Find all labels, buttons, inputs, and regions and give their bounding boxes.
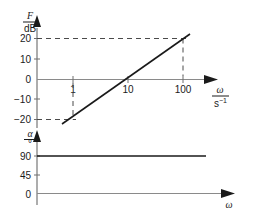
phase-y-tick-label-0: 0 — [25, 189, 31, 200]
bode-diagram-canvas: F dB 20 — [0, 0, 254, 218]
phase-x-axis — [37, 189, 235, 198]
phase-y-tick-label-90: 90 — [20, 151, 32, 162]
magnitude-x-axis-denominator: s−1 — [214, 97, 227, 109]
magnitude-y-tick-labels: 20 10 0 −10 −20 — [14, 33, 31, 125]
y-tick-label-10: 10 — [20, 54, 32, 65]
y-tick-label-20: 20 — [20, 33, 32, 44]
magnitude-y-axis-numerator: F — [26, 10, 34, 21]
phase-y-tick-label-45: 45 — [20, 170, 32, 181]
x-tick-label-10: 10 — [122, 84, 134, 95]
phase-y-axis-denominator: ° — [28, 138, 32, 149]
phase-x-axis-label: ω — [225, 199, 232, 210]
y-tick-label-minus20: −20 — [14, 114, 31, 125]
bode-diagram-figure: F dB 20 — [0, 0, 254, 218]
phase-plot: α ° 90 45 0 — [20, 128, 235, 210]
y-tick-label-minus10: −10 — [14, 94, 31, 105]
magnitude-x-axis-numerator: ω — [216, 84, 223, 95]
x-tick-label-100: 100 — [175, 84, 192, 95]
magnitude-plot: F dB 20 — [14, 10, 229, 128]
magnitude-x-axis-label: ω s−1 — [212, 84, 229, 109]
phase-y-tick-labels: 90 45 0 — [20, 151, 32, 200]
y-tick-label-0: 0 — [25, 74, 31, 85]
magnitude-x-tick-labels: 1 10 100 — [70, 84, 192, 95]
